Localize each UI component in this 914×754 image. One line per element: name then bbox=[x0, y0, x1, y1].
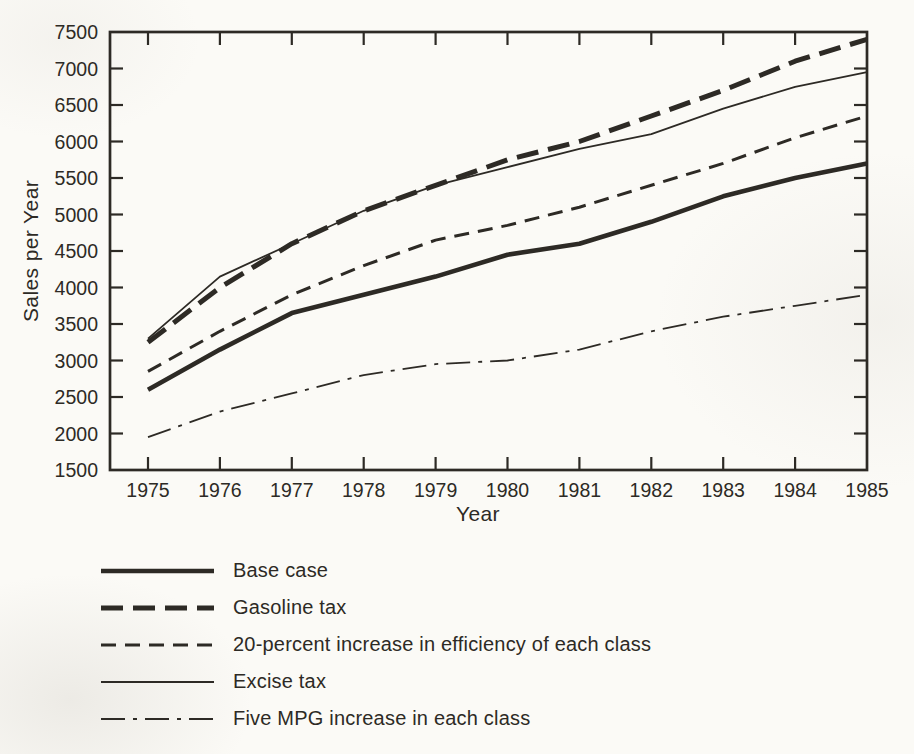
legend-line-sample-20-percent-efficiency bbox=[100, 637, 218, 653]
legend-line-sample-gasoline-tax bbox=[100, 600, 218, 616]
legend-line-sample-excise-tax bbox=[100, 674, 218, 690]
x-tick-label: 1976 bbox=[198, 479, 241, 501]
legend-label: 20-percent increase in efficiency of eac… bbox=[233, 633, 651, 656]
x-tick-label: 1983 bbox=[702, 479, 745, 501]
legend-item-base-case: Base case bbox=[100, 552, 651, 589]
series-line-excise-tax bbox=[148, 72, 867, 338]
y-tick-label: 5500 bbox=[55, 167, 99, 189]
axis-tick-labels: 1500200025003000350040004500500055006000… bbox=[55, 21, 889, 501]
y-tick-label: 7000 bbox=[55, 58, 99, 80]
legend-item-gasoline-tax: Gasoline tax bbox=[100, 589, 651, 626]
y-tick-label: 7500 bbox=[55, 21, 99, 43]
legend-label: Excise tax bbox=[233, 670, 326, 693]
legend-line-sample-five-mpg bbox=[100, 711, 218, 727]
y-tick-label: 6500 bbox=[55, 94, 99, 116]
legend-item-20-percent-efficiency: 20-percent increase in efficiency of eac… bbox=[100, 626, 651, 663]
y-tick-label: 4000 bbox=[55, 277, 99, 299]
x-tick-label: 1975 bbox=[126, 479, 170, 501]
y-tick-label: 6000 bbox=[55, 131, 99, 153]
x-tick-label: 1985 bbox=[845, 479, 889, 501]
y-tick-label: 5000 bbox=[55, 204, 99, 226]
y-tick-label: 2500 bbox=[55, 386, 99, 408]
legend: Base case Gasoline tax 20-percent increa… bbox=[100, 552, 651, 737]
y-tick-label: 1500 bbox=[55, 459, 99, 481]
y-tick-label: 3000 bbox=[55, 350, 99, 372]
y-tick-label: 3500 bbox=[55, 313, 99, 335]
series-line-gasoline-tax bbox=[148, 39, 867, 342]
x-tick-label: 1984 bbox=[773, 479, 817, 501]
series-line-five-mpg-increase-in-each-class bbox=[148, 295, 867, 437]
axis-ticks bbox=[110, 32, 867, 470]
x-axis-title: Year bbox=[456, 502, 500, 526]
legend-item-five-mpg: Five MPG increase in each class bbox=[100, 700, 651, 737]
x-tick-label: 1979 bbox=[414, 479, 457, 501]
legend-label: Gasoline tax bbox=[233, 596, 347, 619]
x-tick-label: 1982 bbox=[630, 479, 673, 501]
plot-border bbox=[110, 32, 867, 470]
series-line-base-case bbox=[148, 163, 867, 389]
x-tick-label: 1981 bbox=[558, 479, 601, 501]
legend-label: Base case bbox=[233, 559, 328, 582]
legend-line-sample-base-case bbox=[100, 563, 218, 579]
y-tick-label: 4500 bbox=[55, 240, 99, 262]
legend-label: Five MPG increase in each class bbox=[233, 707, 530, 730]
x-tick-label: 1978 bbox=[342, 479, 385, 501]
x-tick-label: 1977 bbox=[270, 479, 313, 501]
legend-item-excise-tax: Excise tax bbox=[100, 663, 651, 700]
x-tick-label: 1980 bbox=[486, 479, 530, 501]
y-axis-title: Sales per Year bbox=[19, 180, 43, 322]
y-tick-label: 2000 bbox=[55, 423, 99, 445]
sales-projection-figure: 1500200025003000350040004500500055006000… bbox=[0, 0, 914, 754]
sales-per-year-chart: 1500200025003000350040004500500055006000… bbox=[0, 0, 914, 540]
